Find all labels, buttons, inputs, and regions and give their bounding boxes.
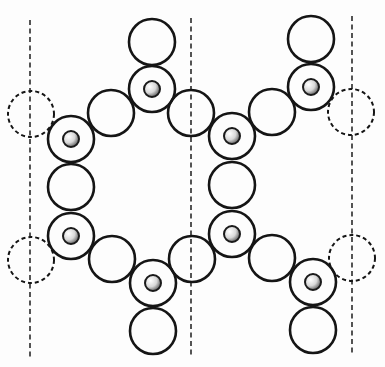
atom-circle — [288, 16, 334, 62]
nucleus-dot — [144, 81, 160, 97]
nucleus-dot — [145, 275, 161, 291]
nucleus-dot — [305, 274, 321, 290]
atom-circle — [48, 164, 94, 210]
atom-bottom-terminal-2 — [290, 307, 336, 353]
atom-bridge-upper-2 — [249, 89, 295, 135]
unit-cell-boundaries — [30, 16, 352, 358]
atom-lower-node-1 — [130, 260, 176, 306]
nucleus-dot — [224, 128, 240, 144]
atom-ring-b-mid — [209, 162, 255, 208]
nucleus-dot — [303, 79, 319, 95]
atom-circle — [129, 19, 175, 65]
nucleus-dot — [63, 228, 79, 244]
atom-ring-b-bottom — [209, 211, 255, 257]
atom-bridge-upper-1 — [88, 90, 134, 136]
crystal-structure-diagram — [0, 0, 385, 367]
atom-ring-a-bottom — [48, 213, 94, 259]
atom-circle — [249, 89, 295, 135]
nucleus-dot — [224, 226, 240, 242]
periodic-image-circle — [8, 237, 54, 283]
atom-bridge-lower-1 — [89, 236, 135, 282]
atom-circle — [89, 236, 135, 282]
periodic-image-circle — [8, 91, 54, 137]
nucleus-dot — [63, 131, 79, 147]
atom-circle — [88, 90, 134, 136]
atom-ring-b-top — [209, 113, 255, 159]
periodic-image-circle — [328, 89, 374, 135]
atom-bridge-lower-2 — [249, 235, 295, 281]
atom-top-terminal-1 — [129, 19, 175, 65]
atom-top-terminal-2 — [288, 16, 334, 62]
atom-circle — [130, 308, 176, 354]
atom-ring-a-mid — [48, 164, 94, 210]
atom-circle — [290, 307, 336, 353]
atom-bottom-terminal-1 — [130, 308, 176, 354]
atom-circle — [209, 162, 255, 208]
atom-left-periodic-lower — [8, 237, 54, 283]
atom-lower-node-2 — [290, 259, 336, 305]
atom-left-periodic-upper — [8, 91, 54, 137]
atom-right-periodic-upper — [328, 89, 374, 135]
atom-circle — [249, 235, 295, 281]
atom-upper-node-2 — [288, 64, 334, 110]
atom-ring-a-top — [48, 116, 94, 162]
